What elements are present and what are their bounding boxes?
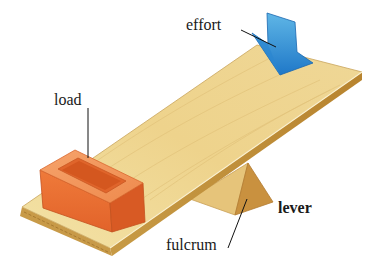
lever-label: lever <box>278 200 312 216</box>
lever-diagram: effort load lever fulcrum <box>0 0 381 279</box>
board <box>20 45 362 256</box>
load-label: load <box>54 92 82 108</box>
fulcrum-label: fulcrum <box>166 237 217 253</box>
effort-label: effort <box>186 17 221 33</box>
